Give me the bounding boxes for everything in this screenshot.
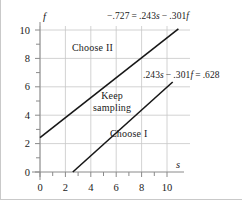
x-tick-label: 6 [114, 182, 119, 193]
keep-sampling-line-1: Keep [93, 90, 131, 102]
y-tick-label: 6 [25, 81, 30, 92]
eq-upper-lhs: −.727 [107, 11, 129, 21]
y-axis-tick-labels: 0 2 4 6 8 10 [20, 25, 31, 178]
x-axis-name: s [176, 159, 180, 170]
region-label-choose-i: Choose I [110, 128, 147, 139]
y-axis-tickmarks [35, 30, 40, 172]
y-tick-label: 0 [25, 167, 30, 178]
upper-line-equation-label: −.727 = .243s − .301f [107, 11, 189, 21]
x-axis-tickmarks [40, 172, 167, 177]
eq-lower-coef-f: .301 [173, 70, 190, 80]
y-tick-label: 8 [25, 53, 30, 64]
decision-boundary-chart: 0 2 4 6 8 10 0 2 4 6 8 10 f s −.727 = .2… [0, 0, 242, 200]
x-tick-label: 4 [88, 182, 94, 193]
x-tick-label: 2 [63, 182, 68, 193]
eq-upper-coef-f: .301 [169, 11, 186, 21]
eq-upper-coef-s: .243 [139, 11, 156, 21]
eq-lower-rhs: .628 [203, 70, 220, 80]
keep-sampling-line-2: sampling [93, 102, 131, 114]
x-axis-tick-labels: 0 2 4 6 8 10 [37, 182, 172, 193]
x-tick-label: 0 [37, 182, 42, 193]
y-tick-label: 2 [25, 138, 30, 149]
y-tick-label: 10 [20, 25, 31, 36]
eq-upper-var-f: f [186, 11, 189, 21]
y-tick-label: 4 [25, 110, 31, 121]
y-axis-name: f [43, 11, 48, 22]
x-tick-label: 8 [139, 182, 144, 193]
region-label-keep-sampling: Keep sampling [93, 90, 131, 113]
region-label-choose-ii: Choose II [72, 42, 113, 53]
lower-line-equation-label: .243s − .301f = .628 [143, 70, 220, 80]
x-tick-label: 10 [162, 182, 173, 193]
eq-lower-coef-s: .243 [143, 70, 160, 80]
